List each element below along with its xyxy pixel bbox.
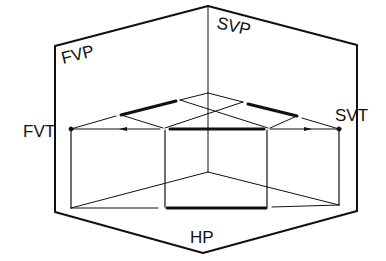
cross-line-d <box>165 102 243 128</box>
incline-left-thick <box>121 101 176 115</box>
incline-right-thick <box>248 104 297 116</box>
projection-diagram: FVP SVP FVT SVT HP <box>0 0 386 261</box>
arrow-right-icon <box>304 127 312 131</box>
incline-left-outer <box>71 116 116 129</box>
incline-right-inner <box>208 93 243 102</box>
hp-line-right <box>208 172 339 205</box>
incline-right-outer <box>302 118 339 129</box>
svt-bottom-line <box>272 205 339 207</box>
arrow-left-icon <box>119 127 127 131</box>
hp-label: HP <box>190 228 214 247</box>
fvp-label: FVP <box>59 41 96 67</box>
svt-point <box>337 127 341 131</box>
fvt-point <box>69 127 73 131</box>
cross-line-c <box>270 116 297 128</box>
hp-line-left <box>71 172 208 208</box>
svt-label: SVT <box>335 106 368 125</box>
fvt-label: FVT <box>23 122 55 141</box>
incline-left-inner <box>180 93 208 100</box>
cross-line-a <box>121 115 163 128</box>
svp-label: SVP <box>215 13 252 39</box>
fvp-plane-outline <box>55 6 208 211</box>
